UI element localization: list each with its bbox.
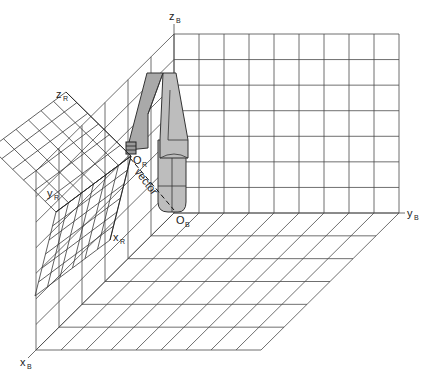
- robot-frame-grid: [0, 92, 131, 296]
- OB-subscript: B: [185, 221, 190, 228]
- yB-subscript: B: [414, 214, 419, 221]
- label-yB: y B: [407, 207, 419, 221]
- xR-label: x: [113, 231, 119, 243]
- OR-label: O: [133, 154, 142, 166]
- xR-subscript: R: [120, 238, 125, 245]
- robot-frame-grid-line: [35, 212, 56, 296]
- yB-label: y: [407, 207, 413, 219]
- yR-label: y: [47, 187, 53, 199]
- label-xR: x R: [113, 231, 125, 245]
- yR-axis: [56, 156, 131, 212]
- diagram-stage: z B y B x B O B z R y R x R O R vector: [0, 0, 432, 380]
- zR-axis: [66, 92, 131, 156]
- OB-label: O: [176, 214, 185, 226]
- robot-frame-grid-line: [2, 103, 77, 159]
- xB-axis: [28, 350, 36, 358]
- zB-subscript: B: [176, 17, 181, 24]
- yz-wall-grid: [174, 24, 405, 213]
- robot-frame-grid-line: [42, 212, 117, 268]
- robot-arm-lower-link: [160, 73, 188, 158]
- zR-subscript: R: [63, 95, 68, 102]
- coordinate-frames-diagram: z B y B x B O B z R y R x R O R vector: [0, 0, 432, 380]
- yR-subscript: R: [54, 194, 59, 201]
- zR-label: z: [56, 88, 62, 100]
- label-OR: O R: [133, 154, 147, 168]
- xy-floor-grid: [28, 213, 399, 358]
- robot-arm-upper-link: [128, 73, 163, 150]
- label-yR: y R: [47, 187, 59, 201]
- vector-label: vector: [132, 166, 160, 197]
- zB-label: z: [169, 10, 175, 22]
- robot-frame-grid-line: [0, 92, 66, 148]
- label-xB: x B: [20, 356, 32, 370]
- robot-frame-grid-line: [13, 113, 88, 169]
- label-zB: z B: [169, 10, 181, 24]
- xB-label: x: [20, 356, 26, 368]
- label-zR: z R: [56, 88, 68, 102]
- label-OB: O B: [176, 214, 190, 228]
- xB-subscript: B: [27, 363, 32, 370]
